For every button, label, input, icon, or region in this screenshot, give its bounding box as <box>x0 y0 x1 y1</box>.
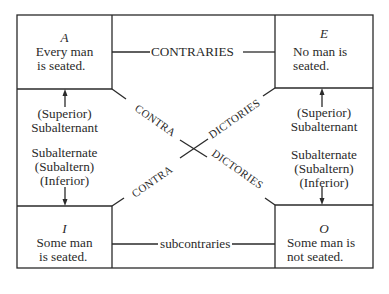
left-inferior-label: (Inferior) <box>17 174 112 188</box>
left-subalternate-label: Subalternate <box>17 146 112 160</box>
corner-i-line1: Some man <box>17 236 112 250</box>
corner-o-letter: O <box>275 222 373 236</box>
left-subaltern-label: (Subaltern) <box>17 160 112 174</box>
right-subalternate-label: Subalternate <box>275 148 373 162</box>
corner-e-line1: No man is <box>293 45 347 59</box>
left-superior-label: (Superior) <box>17 107 112 121</box>
corner-a-letter: A <box>17 31 112 45</box>
right-up-arrowhead <box>320 88 325 95</box>
right-inferior-label: (Inferior) <box>275 176 373 190</box>
corner-i-line2: is seated. <box>39 250 87 264</box>
diag-label-dictories-upper: DICTORIES <box>206 96 262 140</box>
left-up-arrowhead <box>63 89 68 96</box>
corner-o-line2: not seated. <box>287 250 343 264</box>
left-subalternant-label: Subalternant <box>17 121 112 135</box>
square-of-opposition-diagram: CONTRA DICTORIES CONTRA DICTORIES A Ever… <box>0 0 389 294</box>
left-down-arrowhead <box>63 199 68 206</box>
contraries-label: CONTRARIES <box>151 45 234 59</box>
right-subaltern-label: (Subaltern) <box>275 162 373 176</box>
corner-a-line1: Every man <box>17 45 112 59</box>
right-subalternant-label: Subalternant <box>275 120 373 134</box>
corner-a-line2: is seated. <box>37 59 85 73</box>
diag-a-o-seg1 <box>112 89 126 99</box>
diag-label-dictories-lower: DICTORIES <box>210 147 266 191</box>
corner-e-line2: seated. <box>293 59 329 73</box>
diag-a-o-seg3 <box>265 198 275 205</box>
diag-e-i-seg1 <box>263 88 275 96</box>
diag-e-i-seg3 <box>112 198 124 206</box>
corner-e-letter: E <box>275 27 373 41</box>
diag-label-contra-upper: CONTRA <box>133 102 178 139</box>
right-down-arrowhead <box>320 198 325 205</box>
right-superior-label: (Superior) <box>275 106 373 120</box>
subcontraries-label: subcontraries <box>160 237 230 251</box>
diag-label-contra-lower: CONTRA <box>129 163 174 200</box>
corner-i-letter: I <box>17 222 112 236</box>
corner-o-line1: Some man is <box>287 236 355 250</box>
